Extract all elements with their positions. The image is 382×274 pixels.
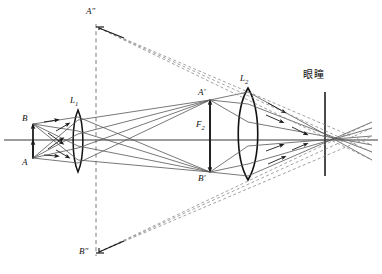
label-intermediate-image-bottom: B′ (198, 174, 205, 183)
label-virtual-image-top: A″ (86, 7, 95, 16)
optical-ray-diagram: B A L1 L2 A′ B′ F2 A″ B″ 眼瞳 (0, 0, 382, 274)
label-intermediate-image-top: A′ (198, 88, 205, 97)
label-eye-pupil: 眼瞳 (303, 70, 324, 80)
rays-eyepiece-to-pupil (248, 92, 372, 176)
label-object-top: B (22, 114, 28, 123)
ray-direction-arrows-left (44, 120, 68, 157)
ray-direction-arrows-right (266, 103, 306, 164)
rays-intermediate-image-to-eyepiece (210, 92, 248, 176)
rays-objective-to-intermediate-image (78, 100, 210, 172)
eyepiece-lens-L2 (238, 88, 258, 180)
label-focal-point-F2: F2 (196, 120, 205, 131)
label-object-bottom: A (22, 158, 28, 167)
objective-lens-subscript: 1 (75, 100, 78, 107)
virtual-rays-lower (99, 122, 372, 252)
label-eyepiece-lens-L2: L2 (240, 74, 248, 85)
eyepiece-lens-subscript: 2 (245, 78, 248, 85)
label-objective-lens-L1: L1 (70, 96, 78, 107)
ray-diagram-canvas (0, 0, 382, 274)
focal-point-subscript: 2 (202, 124, 205, 131)
label-virtual-image-bottom: B″ (79, 247, 88, 256)
